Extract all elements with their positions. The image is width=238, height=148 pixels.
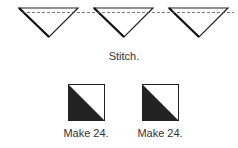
half-square-unit-1 <box>69 85 105 121</box>
half-square-unit-2 <box>143 85 179 121</box>
make-caption-2: Make 24. <box>130 127 190 139</box>
diagram-canvas <box>0 0 238 148</box>
stitch-caption: Stitch. <box>94 50 154 62</box>
make-caption-1: Make 24. <box>56 127 116 139</box>
